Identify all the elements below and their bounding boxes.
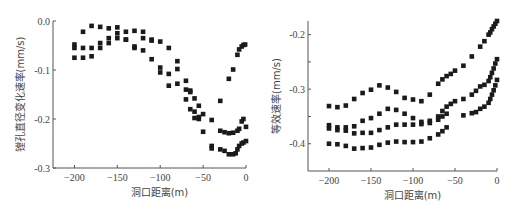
y-axis-title: 镗孔直径变化速率(mm/s) bbox=[14, 36, 26, 152]
data-point bbox=[461, 113, 466, 118]
data-point bbox=[360, 91, 365, 96]
data-point bbox=[377, 143, 382, 148]
data-point bbox=[149, 57, 154, 62]
data-point bbox=[235, 53, 240, 58]
series-2 bbox=[327, 57, 500, 130]
data-point bbox=[352, 124, 357, 129]
data-point bbox=[491, 66, 496, 71]
data-point bbox=[474, 110, 479, 115]
data-point bbox=[192, 109, 197, 114]
data-point bbox=[411, 97, 416, 102]
data-point bbox=[394, 90, 399, 95]
data-point bbox=[493, 83, 498, 88]
data-point bbox=[495, 19, 500, 24]
y-tick-label: -0.1 bbox=[34, 65, 50, 76]
data-point bbox=[72, 55, 77, 60]
data-point bbox=[436, 132, 441, 137]
data-point bbox=[124, 37, 129, 42]
data-point bbox=[233, 151, 238, 156]
data-point bbox=[411, 116, 416, 121]
data-point bbox=[192, 116, 197, 121]
data-point bbox=[440, 77, 445, 82]
data-point bbox=[482, 83, 487, 88]
data-point bbox=[377, 111, 382, 116]
data-point bbox=[369, 116, 374, 121]
data-point bbox=[98, 41, 103, 46]
x-tick-label: −200 bbox=[64, 172, 85, 183]
data-point bbox=[490, 71, 495, 76]
data-point bbox=[184, 78, 189, 83]
x-tick-label: −50 bbox=[447, 175, 463, 186]
y-tick-label: -0.4 bbox=[289, 138, 305, 149]
data-point bbox=[175, 81, 180, 86]
x-axis-title: 洞口距离(m) bbox=[384, 189, 442, 201]
data-point bbox=[115, 36, 120, 41]
data-point bbox=[344, 103, 349, 108]
data-point bbox=[449, 72, 454, 77]
y-tick-label: 0.0 bbox=[38, 16, 51, 27]
data-point bbox=[209, 146, 214, 151]
data-point bbox=[478, 84, 483, 89]
data-point bbox=[106, 36, 111, 41]
data-point bbox=[227, 131, 232, 136]
data-point bbox=[231, 130, 236, 135]
data-point bbox=[81, 55, 86, 60]
data-point bbox=[327, 104, 332, 109]
data-point bbox=[360, 146, 365, 151]
data-point bbox=[490, 92, 495, 97]
data-point bbox=[495, 57, 500, 62]
data-point bbox=[241, 117, 246, 122]
data-point bbox=[440, 109, 445, 114]
figure: −200−150−100−5000.0-0.1-0.2-0.3洞口距离(m)镗孔… bbox=[0, 0, 513, 211]
data-point bbox=[491, 88, 496, 93]
x-tick-label: 0 bbox=[244, 172, 249, 183]
data-point bbox=[493, 61, 498, 66]
data-point bbox=[335, 128, 340, 133]
data-point bbox=[360, 119, 365, 124]
data-point bbox=[482, 104, 487, 109]
data-point bbox=[244, 139, 249, 144]
data-point bbox=[201, 129, 206, 134]
data-point bbox=[89, 54, 94, 59]
data-point bbox=[197, 115, 202, 120]
data-point bbox=[81, 46, 86, 51]
x-axis-title: 洞口距离(m) bbox=[131, 186, 189, 198]
data-point bbox=[106, 41, 111, 46]
data-point bbox=[428, 136, 433, 141]
data-point bbox=[478, 44, 483, 49]
data-point bbox=[158, 65, 163, 70]
data-point bbox=[335, 142, 340, 147]
data-point bbox=[188, 90, 193, 95]
data-point bbox=[470, 54, 475, 59]
data-point bbox=[243, 42, 248, 47]
data-point bbox=[470, 111, 475, 116]
data-point bbox=[327, 141, 332, 146]
y-tick-label: -0.2 bbox=[34, 114, 50, 125]
x-tick-label: −150 bbox=[107, 172, 128, 183]
data-point bbox=[352, 97, 357, 102]
data-point bbox=[141, 48, 146, 53]
data-point bbox=[167, 72, 172, 77]
chart-right: −200−150−100−500-0.2-0.3-0.4洞口距离(m)等效速率(… bbox=[270, 19, 500, 201]
x-tick-label: −100 bbox=[150, 172, 171, 183]
data-point bbox=[175, 59, 180, 64]
data-point bbox=[444, 125, 449, 130]
data-point bbox=[72, 46, 77, 51]
data-point bbox=[488, 97, 493, 102]
y-tick-label: -0.3 bbox=[34, 163, 50, 174]
data-point bbox=[436, 81, 441, 86]
data-point bbox=[218, 99, 223, 104]
data-point bbox=[352, 131, 357, 136]
y-tick-label: -0.3 bbox=[289, 84, 305, 95]
data-point bbox=[149, 38, 154, 43]
data-point bbox=[444, 111, 449, 116]
x-tick-label: −50 bbox=[195, 172, 211, 183]
data-point bbox=[167, 46, 172, 51]
data-point bbox=[237, 127, 242, 132]
data-point bbox=[482, 39, 487, 44]
data-point bbox=[419, 122, 424, 127]
data-point bbox=[369, 87, 374, 92]
data-point bbox=[141, 29, 146, 34]
data-point bbox=[419, 99, 424, 104]
data-point bbox=[394, 139, 399, 144]
